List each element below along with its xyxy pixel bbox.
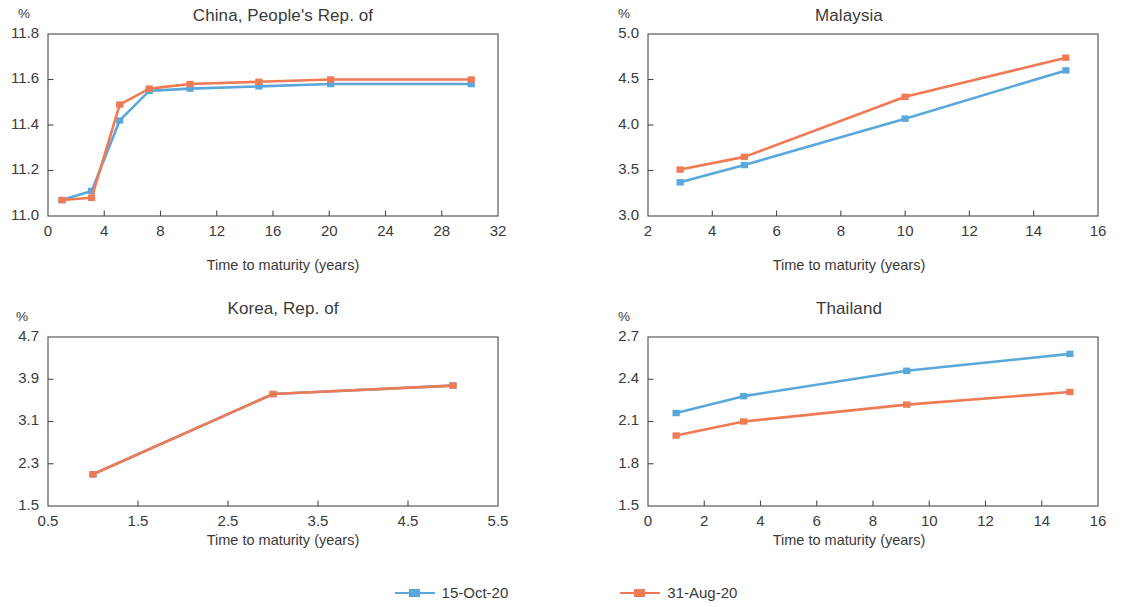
legend-label-aug: 31-Aug-20 xyxy=(667,584,737,601)
y-tick-label-korea-3: 3.9 xyxy=(18,369,39,386)
series-marker-china-1-4 xyxy=(186,81,193,87)
x-tick-label-thailand-7: 14 xyxy=(1033,512,1050,529)
x-tick-label-thailand-8: 16 xyxy=(1090,512,1107,529)
series-marker-china-1-5 xyxy=(255,79,262,85)
plot-frame-china xyxy=(48,34,498,216)
legend-item-oct[interactable]: 15-Oct-20 xyxy=(395,584,509,601)
x-axis-title-china: Time to maturity (years) xyxy=(0,257,566,273)
x-tick-label-malaysia-6: 14 xyxy=(1025,222,1042,239)
series-line-malaysia-1 xyxy=(680,58,1066,170)
x-tick-label-thailand-5: 10 xyxy=(921,512,938,529)
x-tick-label-korea-1: 1.5 xyxy=(128,512,149,529)
legend-swatch-aug-icon xyxy=(620,587,660,599)
x-tick-label-korea-3: 3.5 xyxy=(308,512,329,529)
series-marker-china-1-1 xyxy=(88,195,95,201)
x-tick-label-china-8: 32 xyxy=(490,222,507,239)
y-tick-label-malaysia-0: 3.0 xyxy=(618,206,639,223)
x-tick-label-thailand-0: 0 xyxy=(644,512,652,529)
series-line-thailand-0 xyxy=(676,354,1070,413)
legend-item-aug[interactable]: 31-Aug-20 xyxy=(620,584,737,601)
x-tick-label-china-6: 24 xyxy=(377,222,394,239)
y-tick-label-korea-2: 3.1 xyxy=(18,411,39,428)
x-axis-title-thailand: Time to maturity (years) xyxy=(566,532,1132,548)
series-marker-thailand-0-0 xyxy=(673,410,680,416)
chart-panel-malaysia: Malaysia % 3.03.54.04.55.0246810121416 T… xyxy=(566,0,1132,293)
y-tick-label-china-1: 11.2 xyxy=(11,160,39,177)
y-tick-label-korea-1: 2.3 xyxy=(18,454,39,471)
series-marker-malaysia-1-3 xyxy=(1062,54,1069,60)
x-tick-label-thailand-2: 4 xyxy=(756,512,764,529)
x-tick-label-malaysia-7: 16 xyxy=(1090,222,1107,239)
series-marker-thailand-1-0 xyxy=(673,432,680,438)
series-marker-korea-1-1 xyxy=(269,391,276,397)
chart-svg-china: 11.011.211.411.611.8048121620242832 xyxy=(0,0,566,293)
x-tick-label-korea-4: 4.5 xyxy=(398,512,419,529)
x-axis-title-malaysia: Time to maturity (years) xyxy=(566,257,1132,273)
y-tick-label-china-3: 11.6 xyxy=(11,69,39,86)
series-marker-china-0-2 xyxy=(116,117,123,123)
x-tick-label-china-5: 20 xyxy=(321,222,338,239)
y-tick-label-malaysia-4: 5.0 xyxy=(618,24,639,41)
series-marker-china-1-7 xyxy=(468,76,475,82)
x-tick-label-china-0: 0 xyxy=(44,222,52,239)
x-tick-label-china-4: 16 xyxy=(265,222,282,239)
x-tick-label-china-2: 8 xyxy=(156,222,164,239)
x-tick-label-malaysia-5: 12 xyxy=(961,222,978,239)
series-marker-china-1-6 xyxy=(327,76,334,82)
y-tick-label-korea-0: 1.5 xyxy=(18,496,39,513)
series-line-korea-1 xyxy=(93,386,453,475)
series-marker-malaysia-1-2 xyxy=(902,94,909,100)
series-marker-korea-1-2 xyxy=(449,382,456,388)
series-marker-china-1-2 xyxy=(116,101,123,107)
series-line-malaysia-0 xyxy=(680,70,1066,182)
charts-grid: China, People's Rep. of % 11.011.211.411… xyxy=(0,0,1132,568)
series-marker-malaysia-0-1 xyxy=(741,162,748,168)
chart-svg-thailand: 1.51.82.12.42.70246810121416 xyxy=(566,293,1132,568)
x-tick-label-korea-5: 5.5 xyxy=(488,512,509,529)
x-tick-label-thailand-4: 8 xyxy=(869,512,877,529)
series-marker-malaysia-0-0 xyxy=(677,179,684,185)
x-tick-label-malaysia-4: 10 xyxy=(897,222,914,239)
series-marker-thailand-1-2 xyxy=(903,401,910,407)
plot-area-thailand: 1.51.82.12.42.70246810121416 xyxy=(566,293,1132,568)
series-marker-thailand-1-3 xyxy=(1066,389,1073,395)
series-marker-malaysia-1-1 xyxy=(741,154,748,160)
legend-label-oct: 15-Oct-20 xyxy=(442,584,509,601)
series-marker-thailand-0-3 xyxy=(1066,351,1073,357)
x-tick-label-malaysia-2: 6 xyxy=(772,222,780,239)
y-tick-label-thailand-3: 2.4 xyxy=(618,369,639,386)
x-tick-label-malaysia-3: 8 xyxy=(837,222,845,239)
plot-area-china: 11.011.211.411.611.8048121620242832 xyxy=(0,0,566,293)
x-axis-title-korea: Time to maturity (years) xyxy=(0,532,566,548)
plot-area-malaysia: 3.03.54.04.55.0246810121416 xyxy=(566,0,1132,293)
series-marker-china-1-0 xyxy=(58,197,65,203)
chart-svg-korea: 1.52.33.13.94.70.51.52.53.54.55.5 xyxy=(0,293,566,568)
chart-panel-thailand: Thailand % 1.51.82.12.42.70246810121416 … xyxy=(566,293,1132,568)
series-marker-malaysia-1-0 xyxy=(677,166,684,172)
series-marker-china-1-3 xyxy=(146,85,153,91)
plot-area-korea: 1.52.33.13.94.70.51.52.53.54.55.5 xyxy=(0,293,566,568)
series-marker-malaysia-0-2 xyxy=(902,115,909,121)
y-tick-label-malaysia-2: 4.0 xyxy=(618,115,639,132)
y-tick-label-thailand-1: 1.8 xyxy=(618,454,639,471)
x-tick-label-china-1: 4 xyxy=(100,222,108,239)
chart-panel-korea: Korea, Rep. of % 1.52.33.13.94.70.51.52.… xyxy=(0,293,566,568)
x-tick-label-malaysia-1: 4 xyxy=(708,222,716,239)
y-tick-label-malaysia-1: 3.5 xyxy=(618,160,639,177)
x-tick-label-thailand-6: 12 xyxy=(977,512,994,529)
series-line-china-1 xyxy=(62,80,471,201)
x-tick-label-china-3: 12 xyxy=(208,222,225,239)
chart-panel-china: China, People's Rep. of % 11.011.211.411… xyxy=(0,0,566,293)
series-marker-korea-1-0 xyxy=(89,471,96,477)
plot-frame-malaysia xyxy=(648,34,1098,216)
y-tick-label-thailand-2: 2.1 xyxy=(618,411,639,428)
plot-frame-korea xyxy=(48,337,498,506)
y-tick-label-china-4: 11.8 xyxy=(11,24,39,41)
x-tick-label-malaysia-0: 2 xyxy=(644,222,652,239)
chart-legend: 15-Oct-20 31-Aug-20 xyxy=(0,584,1132,601)
x-tick-label-china-7: 28 xyxy=(433,222,450,239)
series-marker-thailand-0-2 xyxy=(903,368,910,374)
x-tick-label-thailand-1: 2 xyxy=(700,512,708,529)
x-tick-label-korea-2: 2.5 xyxy=(218,512,239,529)
series-marker-thailand-0-1 xyxy=(740,393,747,399)
